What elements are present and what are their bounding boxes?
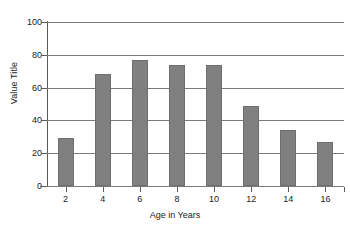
y-tick-label: 20	[16, 149, 42, 158]
y-axis-tick-labels: 020406080100	[16, 0, 42, 229]
plot-area	[47, 22, 344, 186]
y-tick-mark	[41, 153, 47, 154]
y-tick-label: 60	[16, 84, 42, 93]
y-tick-label: 80	[16, 51, 42, 60]
x-tick-mark	[214, 187, 215, 192]
x-tick-label: 4	[83, 194, 123, 204]
y-tick-label: 0	[16, 182, 42, 191]
y-tick-mark	[41, 88, 47, 89]
x-tick-mark	[66, 187, 67, 192]
x-tick-label: 12	[231, 194, 271, 204]
x-tick-label: 14	[268, 194, 308, 204]
y-tick-label: 100	[16, 18, 42, 27]
x-tick-mark	[288, 187, 289, 192]
gridline	[47, 88, 344, 89]
x-tick-mark	[103, 187, 104, 192]
x-tick-label: 8	[157, 194, 197, 204]
x-tick-mark	[140, 187, 141, 192]
bar[interactable]	[206, 65, 222, 186]
gridline	[47, 120, 344, 121]
bar[interactable]	[58, 138, 74, 186]
x-tick-mark-end	[344, 187, 345, 192]
bar[interactable]	[280, 130, 296, 186]
y-tick-mark	[41, 55, 47, 56]
x-tick-label: 2	[46, 194, 86, 204]
x-tick-label: 16	[305, 194, 345, 204]
y-tick-mark	[41, 186, 47, 187]
x-tick-mark	[251, 187, 252, 192]
y-tick-mark	[41, 22, 47, 23]
bar[interactable]	[317, 142, 333, 186]
y-tick-label: 40	[16, 116, 42, 125]
gridline	[47, 22, 344, 23]
x-tick-label: 10	[194, 194, 234, 204]
bar[interactable]	[132, 60, 148, 186]
bar[interactable]	[243, 106, 259, 186]
y-tick-mark	[41, 120, 47, 121]
gridline	[47, 186, 344, 187]
x-axis-title: Age in Years	[0, 210, 350, 220]
x-tick-mark	[177, 187, 178, 192]
bar[interactable]	[169, 65, 185, 186]
x-tick-mark	[325, 187, 326, 192]
x-tick-label: 6	[120, 194, 160, 204]
bar-chart: Value Title 020406080100 Age in Years 24…	[0, 0, 350, 229]
gridline	[47, 55, 344, 56]
bar[interactable]	[95, 74, 111, 186]
gridline	[47, 153, 344, 154]
